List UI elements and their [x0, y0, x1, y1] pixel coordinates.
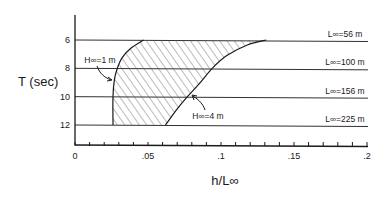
- reference-line: [75, 125, 368, 127]
- x-tick-label: 0: [72, 151, 77, 161]
- arrow-h4m: [193, 96, 205, 110]
- reference-line-label: L∞=56 m: [328, 29, 363, 39]
- y-tick-label: 6: [65, 35, 70, 45]
- y-axis-title: T (sec): [18, 74, 58, 89]
- x-tick-label: .1: [217, 151, 225, 161]
- y-tick-label: 10: [60, 92, 70, 102]
- curve-label-h4m: H∞=4 m: [192, 111, 223, 121]
- reference-line-label: L∞=156 m: [325, 86, 364, 96]
- curve-label-h1m: H∞=1 m: [84, 55, 115, 65]
- y-ticks: 681012: [60, 35, 70, 130]
- reference-line-label: L∞=100 m: [325, 57, 364, 67]
- y-tick-label: 12: [60, 120, 70, 130]
- x-tick-label: .05: [142, 151, 155, 161]
- x-tick-label: .2: [363, 151, 371, 161]
- hatched-region: [113, 40, 266, 125]
- y-tick-label: 8: [65, 63, 70, 73]
- reference-line-label: L∞=225 m: [325, 114, 364, 124]
- x-tick-label: .15: [288, 151, 301, 161]
- chart: 0.05.1.15.2 681012 h/L∞ T (sec) L∞=56 mL…: [0, 0, 389, 211]
- x-axis-title: h/L∞: [211, 173, 238, 188]
